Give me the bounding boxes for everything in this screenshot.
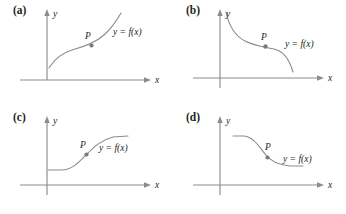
panel-a-point-p-label: P: [85, 31, 91, 41]
panel-b-point-p-marker: [263, 44, 267, 48]
panel-b-function-label: y = f(x): [285, 39, 314, 50]
panel-c-plot: [0, 107, 173, 214]
panel-b-curve: [226, 12, 293, 72]
figure-four-graphs: (a) P y = f(x) y x (b) P y: [0, 0, 346, 214]
panel-b-plot: [173, 0, 346, 107]
panel-a-y-axis-label: y: [53, 9, 57, 19]
panel-c-x-axis-arrow-icon: [144, 182, 151, 187]
panel-b-y-axis-arrow-icon: [217, 9, 222, 16]
panel-d-point-p-marker: [265, 155, 269, 159]
panel-a-x-axis-arrow-icon: [144, 77, 151, 82]
panel-d: (d) P y = f(x) y x: [173, 107, 346, 214]
panel-c-point-p-marker: [84, 152, 88, 156]
panel-a-x-axis-label: x: [155, 75, 159, 85]
panel-b-x-axis-label: x: [328, 73, 332, 83]
panel-d-y-axis-label: y: [226, 116, 230, 126]
panel-b-x-axis-arrow-icon: [317, 75, 324, 80]
panel-c-y-axis-arrow-icon: [44, 116, 49, 123]
panel-c: (c) P y = f(x) y x: [0, 107, 173, 214]
panel-c-y-axis-label: y: [53, 116, 57, 126]
panel-d-y-axis-arrow-icon: [217, 116, 222, 123]
panel-a: (a) P y = f(x) y x: [0, 0, 173, 107]
panel-d-plot: [173, 107, 346, 214]
panel-d-x-axis-arrow-icon: [317, 182, 324, 187]
panel-b-y-axis-label: y: [226, 9, 230, 19]
panel-a-point-p-marker: [89, 43, 93, 47]
panel-d-x-axis-label: x: [328, 180, 332, 190]
panel-a-plot: [0, 0, 173, 107]
panel-d-point-p-label: P: [265, 142, 271, 152]
panel-a-function-label: y = f(x): [113, 27, 142, 38]
panel-c-point-p-label: P: [80, 140, 86, 150]
panel-a-y-axis-arrow-icon: [44, 9, 49, 16]
panel-d-function-label: y = f(x): [283, 154, 312, 165]
panel-c-x-axis-label: x: [155, 180, 159, 190]
panel-c-function-label: y = f(x): [99, 143, 128, 154]
panel-b: (b) P y = f(x) y x: [173, 0, 346, 107]
panel-b-point-p-label: P: [261, 32, 267, 42]
